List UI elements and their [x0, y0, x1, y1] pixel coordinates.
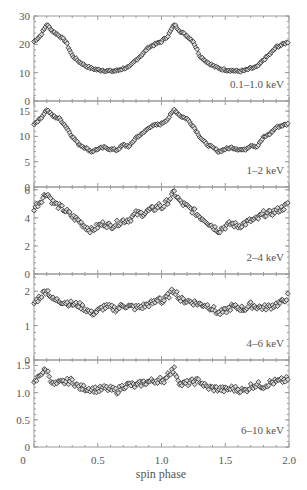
x-tick-label: 0.5 [91, 454, 105, 466]
x-axis-title: spin phase [136, 467, 186, 481]
x-tick-label: 2.0 [282, 454, 296, 466]
y-tick-label: 20 [19, 38, 31, 50]
y-tick-label: 10 [19, 130, 31, 142]
panel-2: 0510151–2 keV [19, 101, 290, 193]
x-tick-label: 1.0 [155, 454, 169, 466]
energy-band-label: 4–6 keV [246, 337, 284, 349]
y-tick-label: 15 [19, 105, 31, 117]
energy-band-label: 2–4 keV [246, 251, 284, 263]
y-tick-label: 0 [25, 441, 31, 453]
panel-5: 00.51.01.56–10 keV [16, 359, 290, 453]
y-tick-label: 6 [25, 184, 31, 196]
y-tick-label: 2 [25, 240, 31, 252]
pulse-profile-chart: 01020300.1–1.0 keV0510151–2 keV02462–4 k… [0, 0, 307, 490]
x-tick-label: 0 [20, 454, 26, 466]
y-tick-label: 1.0 [16, 387, 30, 399]
y-tick-label: 4 [25, 212, 31, 224]
y-tick-label: 30 [19, 10, 31, 22]
panel-3: 02462–4 keV [25, 184, 291, 280]
panel-4: 0124–6 keV [25, 274, 291, 366]
panel-1: 01020300.1–1.0 keV [19, 10, 290, 107]
y-tick-label: 5 [25, 156, 31, 168]
x-tick-label: 1.5 [218, 454, 232, 466]
energy-band-label: 0.1–1.0 keV [230, 78, 284, 90]
y-tick-label: 0.5 [16, 414, 30, 426]
y-tick-label: 1.5 [16, 359, 30, 371]
y-tick-label: 0 [25, 268, 31, 280]
data-point [114, 218, 119, 223]
y-tick-label: 1 [25, 320, 31, 332]
panels-group: 01020300.1–1.0 keV0510151–2 keV02462–4 k… [16, 10, 296, 466]
energy-band-label: 6–10 keV [241, 424, 284, 436]
data-point [47, 374, 52, 379]
y-tick-label: 2 [25, 285, 31, 297]
y-tick-label: 10 [19, 67, 31, 79]
energy-band-label: 1–2 keV [246, 164, 284, 176]
